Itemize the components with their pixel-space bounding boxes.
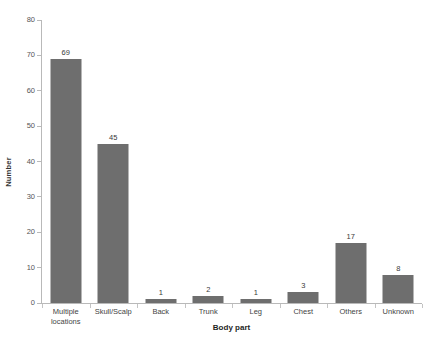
bar-value-label: 1 [159,288,163,297]
y-tick-mark [37,90,41,91]
x-tick-label-line: Skull/Scalp [90,307,138,317]
y-tick: 20 [5,227,41,237]
bar[interactable] [145,299,176,303]
y-tick: 10 [5,263,41,273]
bar-group[interactable]: 69 [42,20,90,303]
bar[interactable] [335,243,366,303]
x-tick-label-line: Back [137,307,185,317]
y-tick-label: 30 [27,192,35,202]
bar-value-label: 2 [206,285,210,294]
y-tick-label: 10 [27,263,35,273]
y-tick-mark [37,126,41,127]
x-tick-label-line: Multiple [42,307,90,317]
y-tick-label: 70 [27,50,35,60]
bar[interactable] [288,292,319,303]
bar[interactable] [383,275,414,303]
x-tick-label-line: Unknown [375,307,423,317]
y-tick-mark [37,161,41,162]
bar-group[interactable]: 45 [90,20,138,303]
x-tick-label: Skull/Scalp [90,307,138,317]
y-tick: 30 [5,192,41,202]
y-tick-mark [37,20,41,21]
bar-value-label: 3 [301,281,305,290]
bar-group[interactable]: 1 [137,20,185,303]
y-tick-label: 0 [31,298,35,308]
bar-value-label: 45 [109,133,117,142]
y-tick: 50 [5,121,41,131]
x-tick-label: Trunk [185,307,233,317]
bar-group[interactable]: 17 [327,20,375,303]
bar[interactable] [98,144,129,303]
y-tick-mark [37,267,41,268]
x-tick-label-line: Trunk [185,307,233,317]
y-tick-label: 40 [27,157,35,167]
bar-value-label: 1 [254,288,258,297]
y-tick-mark [37,232,41,233]
y-tick-label: 60 [27,86,35,96]
y-tick-label: 20 [27,227,35,237]
x-tick-mark [422,304,423,308]
x-tick-label-line: Others [327,307,375,317]
x-tick-label: Back [137,307,185,317]
y-tick: 60 [5,86,41,96]
x-tick-label: Unknown [375,307,423,317]
y-tick-label: 80 [27,15,35,25]
y-tick-label: 50 [27,121,35,131]
x-axis-title: Body part [41,323,422,332]
bar-chart-figure: Number 01020304050607080 69451213178 Mul… [0,0,434,344]
y-tick: 80 [5,15,41,25]
y-tick: 40 [5,157,41,167]
bar-group[interactable]: 2 [185,20,233,303]
bar[interactable] [50,59,81,303]
bar[interactable] [240,299,271,303]
y-tick-mark [37,303,41,304]
x-tick-label: Leg [232,307,280,317]
bar-group[interactable]: 1 [232,20,280,303]
x-tick-label: Chest [280,307,328,317]
bar-group[interactable]: 3 [280,20,328,303]
bar[interactable] [193,296,224,303]
x-tick-label-line: Chest [280,307,328,317]
y-tick: 70 [5,50,41,60]
x-tick-label: Others [327,307,375,317]
bar-value-label: 8 [396,264,400,273]
bar-group[interactable]: 8 [375,20,423,303]
x-tick-label-line: Leg [232,307,280,317]
y-tick-mark [37,196,41,197]
bar-value-label: 17 [347,232,355,241]
plot-area: 01020304050607080 69451213178 [41,20,422,304]
y-tick: 0 [5,298,41,308]
y-tick-mark [37,55,41,56]
bar-value-label: 69 [62,48,70,57]
bar-series: 69451213178 [42,20,422,303]
